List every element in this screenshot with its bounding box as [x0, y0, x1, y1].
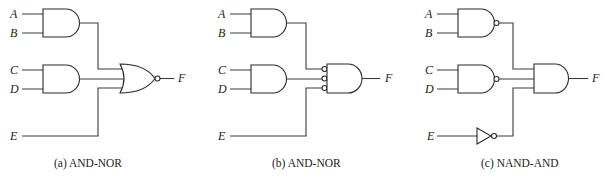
input-label-a: A: [9, 7, 18, 21]
inversion-bubble-icon: [322, 67, 327, 72]
and-gate-icon: [251, 65, 287, 93]
nand-gate-icon: [458, 65, 495, 93]
input-label-c: C: [218, 63, 227, 77]
inversion-bubble-icon: [155, 76, 160, 81]
input-label-c: C: [425, 63, 434, 77]
wire: [497, 23, 535, 136]
output-label-f: F: [384, 71, 393, 85]
logic-diagram: A B C D E F (a) AND-NOR A B C D E: [0, 0, 605, 180]
and-gate-icon: [251, 9, 287, 37]
inversion-bubble-icon: [494, 21, 499, 26]
input-label-d: D: [9, 82, 19, 96]
wire: [286, 23, 322, 79]
input-label-d: D: [217, 82, 227, 96]
output-label-f: F: [591, 71, 600, 85]
panel-b: A B C D E F (b) AND-NOR: [217, 7, 393, 170]
inversion-bubble-icon: [322, 86, 327, 91]
input-label-b: B: [10, 26, 18, 40]
wire: [79, 23, 124, 79]
input-label-c: C: [10, 63, 19, 77]
input-label-a: A: [424, 7, 433, 21]
input-label-b: B: [425, 26, 433, 40]
input-label-e: E: [426, 129, 435, 143]
caption-a: (a) AND-NOR: [54, 157, 122, 170]
inversion-bubble-icon: [322, 76, 327, 81]
and-gate-icon: [43, 9, 80, 37]
caption-b: (b) AND-NOR: [272, 157, 341, 170]
input-label-e: E: [217, 129, 226, 143]
and-gate-icon: [534, 64, 569, 93]
input-label-a: A: [217, 7, 226, 21]
panel-c: A B C D E F (c) NAND-AND: [424, 7, 600, 170]
nor-gate-icon: [120, 64, 155, 93]
input-label-b: B: [218, 26, 226, 40]
not-gate-icon: [477, 128, 491, 144]
input-label-d: D: [424, 82, 434, 96]
output-label-f: F: [177, 71, 186, 85]
nand-gate-icon: [458, 9, 495, 37]
caption-c: (c) NAND-AND: [481, 157, 559, 170]
inversion-bubble-icon: [494, 77, 499, 82]
and-gate-icon: [327, 64, 362, 93]
panel-a: A B C D E F (a) AND-NOR: [9, 7, 186, 170]
input-label-e: E: [9, 129, 18, 143]
inversion-bubble-icon: [492, 134, 497, 139]
and-gate-icon: [43, 65, 80, 93]
